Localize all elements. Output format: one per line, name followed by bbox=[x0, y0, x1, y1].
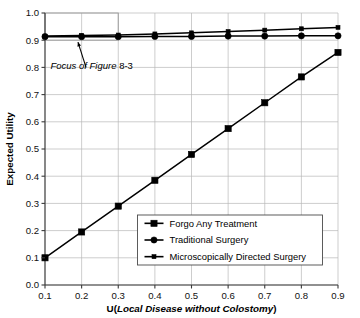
legend-swatch-marker bbox=[151, 220, 157, 226]
y-tick-label: 0.4 bbox=[26, 171, 40, 182]
legend-item-label: Forgo Any Treatment bbox=[170, 218, 258, 229]
y-axis-title: Expected Utility bbox=[4, 112, 15, 186]
annotation-label-italic: Focus of Figure bbox=[50, 60, 119, 71]
data-point-marker bbox=[116, 33, 120, 37]
x-tick-label: 0.2 bbox=[75, 290, 88, 301]
data-point-marker bbox=[225, 33, 231, 39]
data-point-marker bbox=[262, 33, 268, 39]
data-point-marker bbox=[226, 29, 230, 33]
y-tick-label: 0.0 bbox=[26, 279, 39, 290]
data-point-marker bbox=[80, 34, 84, 38]
data-point-marker bbox=[152, 177, 158, 183]
data-point-marker bbox=[43, 34, 47, 38]
data-point-marker bbox=[335, 49, 341, 55]
x-tick-label: 0.1 bbox=[38, 290, 51, 301]
data-point-marker bbox=[262, 100, 268, 106]
data-point-marker bbox=[153, 32, 157, 36]
y-tick-label: 0.2 bbox=[26, 225, 39, 236]
x-tick-label: 0.7 bbox=[258, 290, 271, 301]
chart-background bbox=[0, 0, 360, 318]
x-tick-label: 0.3 bbox=[112, 290, 125, 301]
legend-item-3[interactable]: Microscopically Directed Surgery bbox=[145, 251, 307, 262]
y-tick-label: 0.3 bbox=[26, 198, 39, 209]
data-point-marker bbox=[79, 229, 85, 235]
y-tick-label: 0.6 bbox=[26, 116, 39, 127]
data-point-marker bbox=[299, 27, 303, 31]
data-point-marker bbox=[188, 151, 194, 157]
x-tick-label: 0.5 bbox=[185, 290, 198, 301]
data-point-marker bbox=[298, 33, 304, 39]
chart-figure: 0.00.10.20.30.40.50.60.70.80.91.00.10.20… bbox=[0, 0, 360, 318]
data-point-marker bbox=[115, 203, 121, 209]
y-tick-label: 0.5 bbox=[26, 143, 39, 154]
x-tick-label: 0.8 bbox=[295, 290, 308, 301]
x-tick-label: 0.9 bbox=[331, 290, 344, 301]
data-point-marker bbox=[336, 25, 340, 29]
data-point-marker bbox=[190, 31, 194, 35]
y-tick-label: 0.7 bbox=[26, 89, 39, 100]
x-tick-label: 0.4 bbox=[148, 290, 162, 301]
x-axis-title: U(Local Disease without Colostomy) bbox=[107, 303, 277, 314]
y-tick-label: 0.1 bbox=[26, 252, 39, 263]
data-point-marker bbox=[225, 126, 231, 132]
y-tick-label: 0.9 bbox=[26, 35, 39, 46]
data-point-marker bbox=[335, 33, 341, 39]
legend-swatch-marker bbox=[151, 237, 157, 243]
annotation-label: Focus of Figure 8-3 bbox=[50, 60, 132, 71]
x-tick-label: 0.6 bbox=[221, 290, 234, 301]
y-tick-label: 0.8 bbox=[26, 62, 39, 73]
legend-swatch-marker bbox=[152, 255, 156, 259]
legend-item-label: Traditional Surgery bbox=[170, 234, 249, 245]
chart-legend[interactable]: Forgo Any TreatmentTraditional SurgeryMi… bbox=[138, 215, 323, 265]
data-point-marker bbox=[298, 74, 304, 80]
x-axis-title-suffix: ) bbox=[273, 303, 276, 314]
x-axis-title-italic: Local Disease without Colostomy bbox=[117, 303, 274, 314]
y-tick-label: 1.0 bbox=[26, 7, 39, 18]
data-point-marker bbox=[263, 28, 267, 32]
expected-utility-line-chart: 0.00.10.20.30.40.50.60.70.80.91.00.10.20… bbox=[0, 0, 360, 318]
annotation-label-roman: 8-3 bbox=[119, 60, 133, 71]
legend-item-label: Microscopically Directed Surgery bbox=[170, 251, 307, 262]
